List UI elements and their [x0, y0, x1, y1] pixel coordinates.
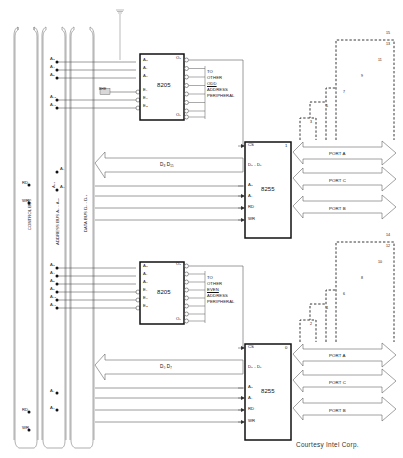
data-arrow-odd-label: D₈ D₁₅	[160, 162, 174, 167]
addr-tap-a16-mid: A₁₆	[52, 182, 57, 188]
ppi-odd-pin-data: D₀ - D₇	[248, 163, 262, 168]
stack-even-num-4: 4	[326, 306, 328, 310]
decoder-even-in-a0: A₀	[143, 264, 148, 269]
ppi-even-name: 8255	[261, 388, 275, 395]
ppi-even-port-a: PORT A	[329, 353, 346, 358]
ppi-odd-index: 1	[285, 144, 287, 149]
bus-data	[70, 27, 94, 448]
addr-tap-l-a4: A₄	[50, 271, 55, 276]
ppi-even-pin-cs: CS	[248, 345, 254, 350]
stack-even-num-12: 12	[386, 244, 390, 248]
decoder-odd-out-last: O₇	[176, 113, 181, 118]
decoder-even-name: 8205	[157, 289, 171, 296]
decoder-even-out-last: O₇	[176, 317, 181, 322]
decoder-odd-in-e1: E₁	[143, 88, 147, 93]
ppi-odd-pin-a1: A₁	[248, 194, 252, 199]
control-tap-rd-1: RD	[22, 181, 28, 186]
decoder-even-out-first: O₀	[176, 262, 181, 267]
stack-odd-num-11: 11	[378, 58, 382, 62]
data-arrow-even-label: D₀ D₇	[160, 364, 172, 369]
decoder-odd-in-e3: E₃	[143, 104, 148, 109]
decoder-odd-in-e2: E₂	[143, 96, 148, 101]
addr-tap-a16: A₁₆	[50, 95, 56, 100]
ppi-even-pin-data: D₀ - D₇	[248, 365, 262, 370]
stack-odd-num-13: 13	[386, 42, 390, 46]
stack-odd	[300, 40, 394, 140]
decoder-even-in-e1: E₁	[143, 288, 147, 293]
addr-tap-a19: A₁₉	[50, 103, 56, 108]
ppi-even-port-b: PORT B	[329, 408, 346, 413]
decoder-odd-out-first: O₀	[176, 56, 181, 61]
decoder-odd-outputs	[185, 58, 244, 146]
ppi-odd-pin-rd: RD	[248, 205, 254, 210]
addr-tap-a5: A₅	[50, 73, 55, 78]
decoder-even-in-e3: E₃	[143, 304, 148, 309]
decoder-odd-in-a0: A₀	[143, 58, 148, 63]
ppi-even-pin-a0: A₀	[248, 385, 253, 390]
addr-tap-a3: A₃	[50, 57, 55, 62]
control-tap-wr-1: WR	[22, 199, 29, 204]
stack-odd-num-15: 15	[386, 31, 390, 35]
ppi-even-pin-a1: A₁	[248, 396, 252, 401]
stack-even	[300, 242, 394, 342]
stack-odd-num-7: 7	[343, 90, 345, 94]
stack-even-num-6: 6	[343, 292, 345, 296]
addr-tap-l-a6: A₆	[50, 287, 55, 292]
addr-tap-l-a19: A₁₉	[50, 303, 56, 308]
ppi-even-pins	[238, 346, 245, 424]
addr-tap-a4: A₄	[50, 65, 55, 70]
decoder-even-note-5: PERIPHERAL	[207, 300, 235, 305]
ppi-odd-pin-wr: WR	[248, 217, 255, 222]
ppi-odd-name: 8255	[261, 186, 275, 193]
ppi-even-index: 0	[285, 346, 287, 351]
figure-caption: Courtesy Intel Corp.	[296, 441, 359, 448]
decoder-even-in-a1: A₁	[143, 272, 147, 277]
ppi-even-pin-wr: WR	[248, 419, 255, 424]
ppi-odd-pins	[238, 144, 245, 222]
decoder-odd-in-a1: A₁	[143, 66, 147, 71]
stack-even-num-2: 2	[310, 322, 312, 326]
control-tap-rd-2: RD	[22, 408, 28, 413]
ppi-odd-port-c: PORT C	[329, 178, 346, 183]
decoder-even-in-e2: E₂	[143, 296, 148, 301]
bus-label-address: ADDRESS BUS A₀ - A₁₉	[56, 198, 61, 245]
clock-stub	[116, 10, 124, 60]
addr-tap-l-a3: A₃	[50, 263, 55, 268]
ppi-odd-port-a: PORT A	[329, 151, 346, 156]
decoder-odd-name: 8205	[157, 82, 171, 89]
addr-tap-l-a1: A₁	[50, 389, 54, 394]
bus-label-data: DATA BUS D₀ - D₁₅	[84, 194, 89, 232]
ppi-odd-port-b: PORT B	[329, 206, 346, 211]
stack-even-num-14: 14	[386, 233, 390, 237]
bus-address	[42, 27, 66, 448]
decoder-even-outputs	[185, 264, 244, 348]
control-tap-wr-2: WR	[22, 426, 29, 431]
stack-odd-num-5: 5	[326, 104, 328, 108]
addr-tap-l-a16: A₁₆	[50, 295, 56, 300]
stack-odd-num-9: 9	[361, 74, 363, 78]
stack-even-num-10: 10	[378, 260, 382, 264]
decoder-odd-in-a2: A₂	[143, 74, 148, 79]
addr-tap-l-a5: A₅	[50, 279, 55, 284]
decoder-even-wires	[56, 267, 141, 311]
ppi-even-pin-rd: RD	[248, 407, 254, 412]
addr-tap-l-a2: A₂	[50, 406, 55, 411]
ppi-odd-pin-a0: A₀	[248, 183, 253, 188]
ppi-even-port-c: PORT C	[329, 380, 346, 385]
addr-tap-a1-mid: A₁	[60, 167, 64, 172]
addr-tap-a2-mid: A₂	[60, 185, 65, 190]
bhe-label: BHE	[99, 88, 106, 92]
stack-even-num-8: 8	[361, 276, 363, 280]
stack-odd-num-3: 3	[310, 120, 312, 124]
bus-control	[14, 27, 38, 448]
decoder-odd-wires	[56, 61, 141, 111]
decoder-even-in-a2: A₂	[143, 280, 148, 285]
ppi-odd-pin-cs: CS	[248, 143, 254, 148]
decoder-odd-note-5: PERIPHERAL	[207, 94, 235, 99]
